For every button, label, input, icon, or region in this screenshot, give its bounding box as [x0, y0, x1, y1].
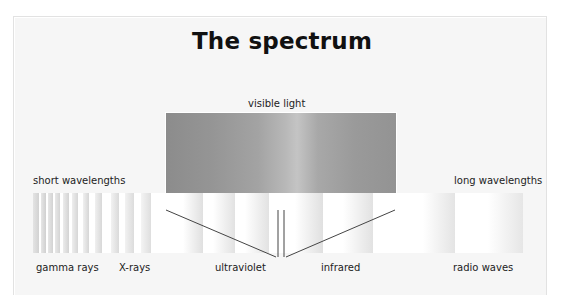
- band-label-infrared: infrared: [321, 262, 360, 273]
- band-label-ultraviolet: ultraviolet: [215, 262, 266, 273]
- band-label-radio-waves: radio waves: [453, 262, 513, 273]
- band-label-gamma-rays: gamma rays: [36, 262, 99, 273]
- band-label-x-rays: X-rays: [119, 262, 150, 273]
